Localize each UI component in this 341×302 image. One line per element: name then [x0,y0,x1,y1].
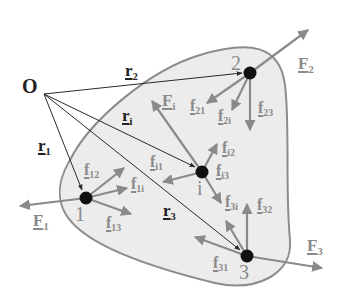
f12-label: f12 [84,162,99,180]
f31-label: f31 [213,255,228,273]
fi2-label: fi2 [222,140,235,158]
r2-label: r2 [125,62,138,82]
point-1-label: 1 [75,204,85,224]
f3i-label: f3i [225,194,238,212]
f21-label: f21 [190,98,205,116]
r1-label: r1 [38,137,51,157]
f2i-label: f2i [218,108,231,126]
origin-label: O [22,76,38,96]
Fi-label: Fi [162,92,175,112]
particle-2 [244,67,257,80]
point-3-label: 3 [239,262,249,282]
F2-label: F2 [298,55,314,75]
point-2-label: 2 [231,53,241,73]
F3-label: F3 [307,237,323,257]
f13-label: f13 [106,215,121,233]
F1-label: F1 [33,212,49,232]
point-i-label: i [197,178,203,198]
rigid-body-diagram [0,0,341,302]
f23-label: f23 [258,100,273,118]
f1i-label: f1i [131,176,144,194]
fi1-label: fi1 [150,154,163,172]
fi3-label: fi3 [216,163,229,181]
f32-label: f32 [257,197,272,215]
ri-label: ri [122,107,132,127]
r3-label: r3 [163,202,176,222]
